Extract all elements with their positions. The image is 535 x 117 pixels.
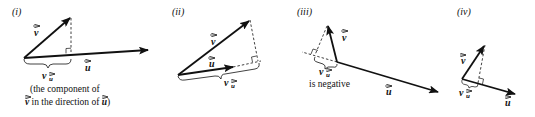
projection-brace (314, 57, 337, 69)
caption-line-2: v in the direction of u) (25, 97, 110, 108)
vector-v-label: v (342, 32, 347, 43)
projection-brace (24, 59, 71, 68)
u-extension-dashed-line (233, 61, 261, 67)
vector-u-label: u (505, 97, 511, 108)
vector-v-label: v (34, 27, 39, 38)
perpendicular-dashed-line (250, 20, 258, 61)
projection-subscript: u (326, 71, 330, 79)
caption-is-negative: is negative (309, 79, 350, 89)
vector-v-arrow (24, 18, 70, 58)
vector-u-label: u (386, 86, 392, 97)
panel-iii: (iii) v u v u is negative (297, 6, 438, 97)
perpendicular-dashed-line (315, 26, 327, 55)
right-angle-marker (311, 49, 318, 54)
panel-iv-label: (iv) (457, 6, 472, 18)
caption-line-1: (the component of (30, 84, 100, 95)
panel-ii: (ii) v u v u (172, 6, 261, 90)
right-angle-marker (66, 48, 71, 53)
vector-u-label: u (209, 58, 215, 69)
projection-label: v (319, 66, 324, 77)
vector-u-label: u (85, 62, 91, 73)
projection-subscript: u (231, 82, 235, 90)
projection-label: v (42, 70, 47, 81)
projection-subscript: u (49, 75, 53, 83)
vector-u-arrow (24, 50, 148, 58)
projection-subscript: u (466, 92, 470, 100)
vector-u-arrow (462, 79, 515, 94)
panel-iii-label: (iii) (297, 6, 313, 18)
u-extension-dashed-line (302, 52, 337, 62)
panel-i: (i) v u v u (the component of v in the d… (12, 6, 148, 108)
vector-v-label: v (211, 36, 216, 47)
right-angle-marker (252, 56, 257, 62)
vector-projection-diagram: (i) v u v u (the component of v in the d… (0, 0, 535, 117)
panel-i-label: (i) (12, 6, 22, 18)
panel-iv: (iv) v u v u (457, 6, 515, 108)
vector-v-label: v (461, 55, 466, 66)
vector-v-arrow (328, 26, 337, 62)
panel-ii-label: (ii) (172, 6, 185, 18)
projection-label: v (224, 77, 229, 88)
projection-label: v (459, 87, 464, 98)
